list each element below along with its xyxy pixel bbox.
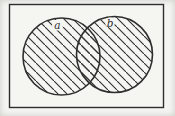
circle-b	[77, 17, 153, 93]
label-a: a	[54, 19, 60, 31]
label-b: b	[107, 17, 114, 29]
venn-diagram-figure: a b	[0, 0, 175, 116]
venn-diagram-canvas: a b	[0, 0, 175, 116]
